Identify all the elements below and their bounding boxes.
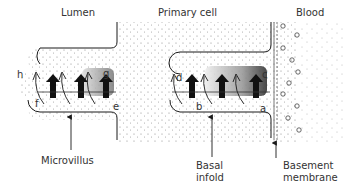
- label-basal-infold-2: infold: [196, 172, 224, 183]
- label-lumen: Lumen: [61, 7, 95, 18]
- label-basement-membrane-1: Basement: [283, 160, 334, 171]
- label-primary-cell: Primary cell: [158, 7, 217, 18]
- letter-f: f: [35, 99, 39, 109]
- letter-g: g: [103, 69, 109, 79]
- letter-d: d: [176, 73, 182, 83]
- letter-c: c: [262, 70, 268, 80]
- label-basal-infold-1: Basal: [196, 160, 223, 171]
- label-microvillus: Microvillus: [41, 155, 94, 166]
- letter-e: e: [113, 102, 119, 112]
- letter-h: h: [17, 70, 23, 80]
- label-blood: Blood: [296, 7, 324, 18]
- blood-region: [300, 22, 343, 142]
- letter-a: a: [260, 104, 266, 114]
- letter-b: b: [196, 102, 202, 112]
- label-basement-membrane-2: membrane: [283, 172, 338, 183]
